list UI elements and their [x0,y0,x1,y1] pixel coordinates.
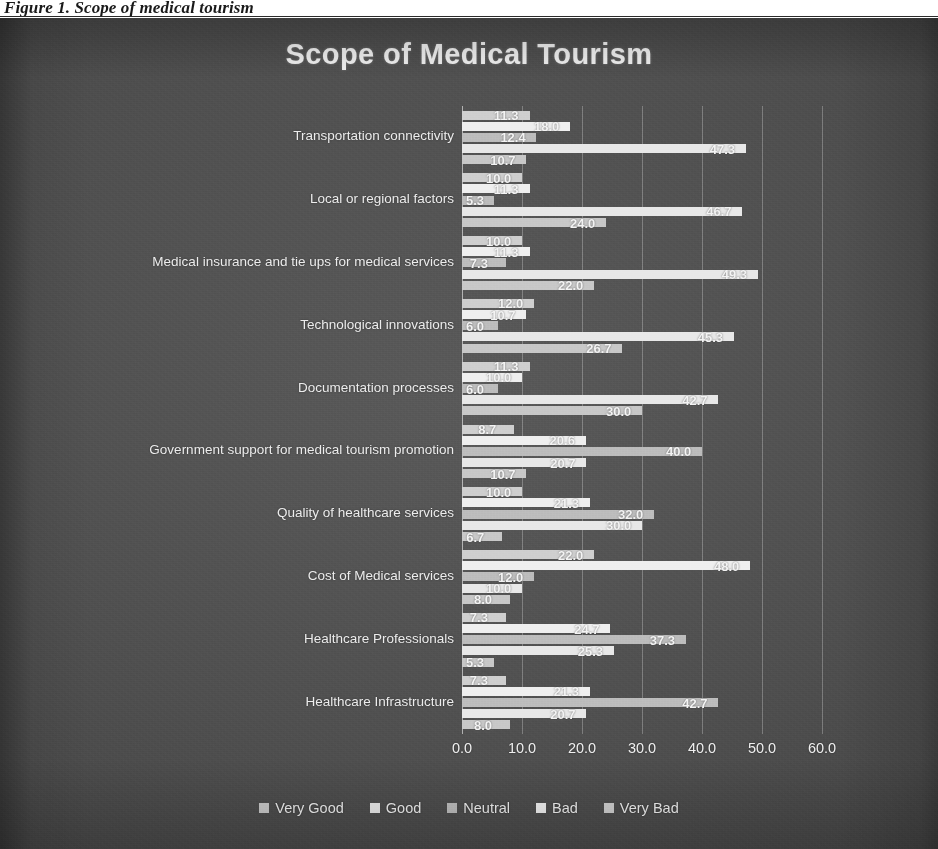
bar-group: 22.048.012.010.08.0 [462,546,822,609]
x-tick-label: 10.0 [508,740,536,756]
bar-good[interactable] [462,395,718,404]
legend-label: Very Bad [620,800,679,816]
bar-data-label: 11.3 [494,108,519,123]
bar-row: 25.3 [462,646,822,655]
bar-data-label: 20.7 [550,455,575,470]
bar-row: 10.0 [462,487,822,496]
bar-row: 30.0 [462,521,822,530]
bar-group: 11.318.012.447.310.7 [462,106,822,169]
bar-data-label: 48.0 [714,558,739,573]
bar-row: 30.0 [462,406,822,415]
bar-data-label: 24.0 [570,215,595,230]
x-tick-label: 30.0 [628,740,656,756]
bar-data-label: 8.0 [474,717,492,732]
bar-row: 42.7 [462,698,822,707]
x-tick-label: 20.0 [568,740,596,756]
legend-swatch-icon [447,803,457,813]
value-axis-tick-labels: 0.010.020.030.040.050.060.0 [462,740,822,764]
bar-data-label: 6.7 [466,529,484,544]
bar-data-label: 24.7 [574,621,599,636]
legend-label: Neutral [463,800,510,816]
bar-data-label: 12.4 [500,130,525,145]
bar-good[interactable] [462,270,758,279]
x-tick-label: 40.0 [688,740,716,756]
bar-data-label: 10.7 [490,307,515,322]
x-tick-label: 0.0 [452,740,472,756]
bar-data-label: 22.0 [558,278,583,293]
bar-data-label: 6.0 [466,381,484,396]
bar-data-label: 25.3 [578,643,603,658]
bar-row: 32.0 [462,510,822,519]
bar-data-label: 5.3 [466,655,484,670]
bar-data-label: 21.3 [554,495,579,510]
bar-data-label: 42.7 [682,392,707,407]
legend-item[interactable]: Good [370,800,421,816]
bar-data-label: 21.3 [554,684,579,699]
bar-row: 42.7 [462,395,822,404]
bar-row: 6.0 [462,321,822,330]
bar-group: 12.010.76.045.326.7 [462,294,822,357]
bar-row: 10.0 [462,584,822,593]
legend-item[interactable]: Very Good [259,800,344,816]
bar-row: 7.3 [462,613,822,622]
category-label: Technological innovations [14,317,454,332]
bar-row: 49.3 [462,270,822,279]
bar-row: 7.3 [462,258,822,267]
x-tick-label: 60.0 [808,740,836,756]
bar-row: 8.0 [462,595,822,604]
bar-row: 22.0 [462,281,822,290]
bar-data-label: 22.0 [558,547,583,562]
bar-group: 8.720.640.020.710.7 [462,420,822,483]
bar-row: 45.3 [462,332,822,341]
legend-item[interactable]: Neutral [447,800,510,816]
bar-data-label: 7.3 [470,673,488,688]
bar-row: 47.3 [462,144,822,153]
bar-row: 37.3 [462,635,822,644]
bar-data-label: 8.0 [474,592,492,607]
bar-row: 8.0 [462,720,822,729]
bar-neutral[interactable] [462,698,718,707]
bar-data-label: 30.0 [606,518,631,533]
legend-item[interactable]: Very Bad [604,800,679,816]
bar-data-label: 7.3 [470,255,488,270]
bar-group: 10.021.332.030.06.7 [462,483,822,546]
bar-row: 6.7 [462,532,822,541]
bar-data-label: 7.3 [470,610,488,625]
bar-data-label: 10.0 [486,484,511,499]
category-label: Government support for medical tourism p… [14,442,454,457]
bar-row: 11.3 [462,184,822,193]
bar-data-label: 40.0 [666,444,691,459]
plot-area: 11.318.012.447.310.710.011.35.346.724.01… [462,106,822,734]
bar-group: 10.011.37.349.322.0 [462,232,822,295]
bar-data-label: 11.3 [494,244,519,259]
legend-swatch-icon [370,803,380,813]
bar-group: 7.321.342.720.78.0 [462,671,822,734]
bar-row: 20.7 [462,458,822,467]
bar-data-label: 20.7 [550,706,575,721]
bar-data-label: 46.7 [706,204,731,219]
bar-row: 5.3 [462,196,822,205]
bar-row: 11.3 [462,362,822,371]
bar-data-label: 49.3 [722,267,747,282]
category-label: Documentation processes [14,380,454,395]
legend-swatch-icon [259,803,269,813]
bar-row: 5.3 [462,658,822,667]
bar-data-label: 10.7 [490,152,515,167]
category-label: Healthcare Infrastructure [14,694,454,709]
bar-data-label: 5.3 [466,193,484,208]
figure-page: Figure 1. Scope of medical tourism Scope… [0,0,938,849]
bar-group: 11.310.06.042.730.0 [462,357,822,420]
bar-data-label: 11.3 [494,181,519,196]
bar-group: 7.324.737.325.35.3 [462,608,822,671]
bar-good[interactable] [462,207,742,216]
category-axis-labels: Transportation connectivityLocal or regi… [10,106,454,734]
category-label: Local or regional factors [14,191,454,206]
bar-row: 12.0 [462,572,822,581]
category-label: Quality of healthcare services [14,505,454,520]
bar-row: 26.7 [462,344,822,353]
legend-item[interactable]: Bad [536,800,578,816]
bar-row: 7.3 [462,676,822,685]
bar-data-label: 6.0 [466,318,484,333]
bar-row: 12.4 [462,133,822,142]
chart-legend: Very GoodGoodNeutralBadVery Bad [0,800,938,816]
